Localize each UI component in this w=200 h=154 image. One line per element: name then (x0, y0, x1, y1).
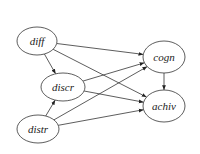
node-distr: distr (17, 115, 59, 143)
node-label: achiv (152, 100, 176, 112)
node-cogn: cogn (143, 41, 185, 73)
edge-diff-to-discr (44, 54, 55, 74)
edge-discr-to-cogn (83, 63, 144, 81)
edge-distr-to-discr (46, 100, 56, 116)
edge-diff-to-cogn (57, 44, 144, 55)
node-discr: discr (41, 73, 85, 101)
edge-discr-to-achiv (84, 91, 144, 102)
node-achiv: achiv (143, 90, 185, 122)
edge-distr-to-achiv (58, 110, 143, 126)
node-label: cogn (153, 51, 175, 63)
diagram-svg: diffdiscrdistrcognachiv (0, 0, 200, 154)
node-diff: diff (17, 27, 57, 55)
path-diagram: diffdiscrdistrcognachiv (0, 0, 200, 154)
node-label: distr (28, 123, 49, 135)
node-label: diff (30, 35, 47, 47)
nodes-group: diffdiscrdistrcognachiv (17, 27, 185, 143)
node-label: discr (52, 81, 75, 93)
